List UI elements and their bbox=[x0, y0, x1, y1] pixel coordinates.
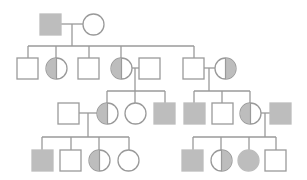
female-circle-I-2 bbox=[83, 14, 104, 35]
female-circle-IV-7 bbox=[238, 150, 259, 171]
male-square-I-1 bbox=[40, 14, 61, 35]
pedigree-chart bbox=[0, 0, 307, 180]
male-square-II-1 bbox=[17, 58, 38, 79]
female-circle-IV-3 bbox=[89, 150, 110, 171]
male-square-III-1 bbox=[58, 103, 79, 124]
relationship-lines bbox=[28, 24, 276, 150]
male-square-III-4 bbox=[154, 103, 175, 124]
female-circle-II-4 bbox=[111, 58, 132, 79]
female-circle-IV-4 bbox=[118, 150, 139, 171]
female-circle-II-2 bbox=[46, 58, 67, 79]
male-square-III-6 bbox=[212, 103, 233, 124]
male-square-III-8 bbox=[270, 103, 291, 124]
male-square-III-5 bbox=[184, 103, 205, 124]
male-square-IV-8 bbox=[265, 150, 286, 171]
male-square-II-3 bbox=[78, 58, 99, 79]
male-square-IV-2 bbox=[60, 150, 81, 171]
female-circle-III-7 bbox=[240, 103, 261, 124]
male-square-II-6 bbox=[183, 58, 204, 79]
male-square-IV-5 bbox=[182, 150, 203, 171]
female-circle-III-3 bbox=[125, 103, 146, 124]
female-circle-III-2 bbox=[97, 103, 118, 124]
male-square-IV-1 bbox=[32, 150, 53, 171]
male-square-II-5 bbox=[139, 58, 160, 79]
female-circle-II-7 bbox=[215, 58, 236, 79]
female-circle-IV-6 bbox=[211, 150, 232, 171]
